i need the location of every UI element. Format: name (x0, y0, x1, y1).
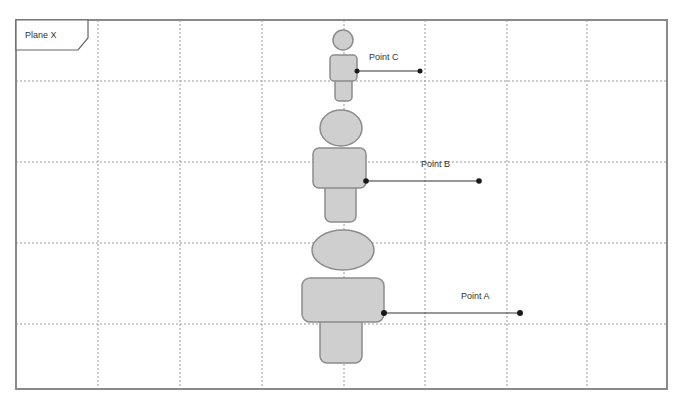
figure-b-body (313, 148, 366, 188)
figure-a-head (312, 230, 374, 270)
figure-b-head (320, 110, 362, 146)
plane-label-tab: Plane X (16, 20, 88, 50)
arrow-point-c: Point C (355, 52, 423, 74)
figure-a-body (302, 278, 384, 322)
figure-a[interactable] (302, 230, 384, 363)
point-c-label: Point C (369, 52, 399, 62)
plane-diagram: Plane X Point C Point B Point A (0, 0, 679, 405)
figure-c[interactable] (330, 30, 357, 101)
figure-b[interactable] (313, 110, 366, 222)
point-b-label: Point B (421, 159, 450, 169)
figure-c-head (333, 30, 353, 50)
plane-label: Plane X (25, 30, 57, 40)
point-a-label: Point A (461, 291, 490, 301)
arrow-point-a: Point A (381, 291, 523, 316)
figure-c-body (330, 55, 357, 81)
arrow-point-b: Point B (363, 159, 482, 184)
